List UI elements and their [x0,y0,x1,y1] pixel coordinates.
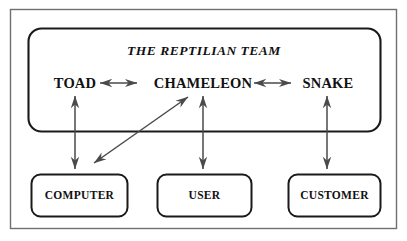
team-member-chameleon: CHAMELEON [138,76,268,91]
team-member-toad: TOAD [35,76,115,91]
entity-label-user: USER [157,190,252,202]
entity-label-customer: CUSTOMER [288,190,381,202]
reptilian-team-title: THE REPTILIAN TEAM [28,44,380,58]
diagram-canvas: THE REPTILIAN TEAM TOAD CHAMELEON SNAKE … [0,0,407,241]
team-member-snake: SNAKE [290,76,366,91]
diagram-graphics [0,0,407,241]
entity-label-computer: COMPUTER [31,190,128,202]
